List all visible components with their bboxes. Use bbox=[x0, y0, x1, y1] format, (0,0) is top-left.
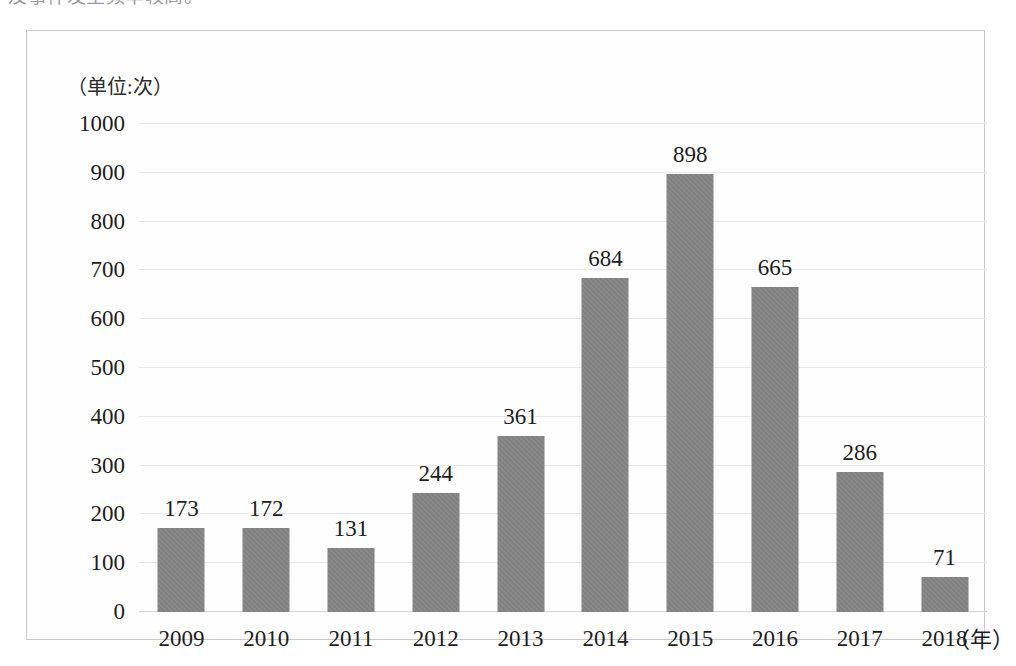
y-axis-tick-label: 0 bbox=[114, 600, 126, 623]
bar[interactable] bbox=[497, 436, 544, 612]
y-axis-tick-label: 900 bbox=[91, 160, 126, 183]
y-axis-tick-label: 100 bbox=[91, 551, 126, 574]
bar-value-label: 71 bbox=[933, 546, 956, 569]
bar-value-label: 131 bbox=[334, 517, 369, 540]
bar-value-label: 244 bbox=[419, 462, 454, 485]
bar[interactable] bbox=[412, 493, 459, 612]
x-axis-tick-label: 2016 bbox=[752, 626, 798, 651]
bar-group: 712018 bbox=[902, 124, 987, 612]
bar-group: 6652016 bbox=[733, 124, 818, 612]
bar-group: 1312011 bbox=[309, 124, 394, 612]
bar-group: 1732009 bbox=[139, 124, 224, 612]
bar-group: 2862017 bbox=[817, 124, 902, 612]
bar-group: 6842014 bbox=[563, 124, 648, 612]
bar[interactable] bbox=[243, 528, 290, 612]
y-axis-tick-label: 600 bbox=[91, 307, 126, 330]
y-axis-unit-label: （单位:次） bbox=[67, 75, 173, 99]
y-axis-tick-label: 800 bbox=[91, 209, 126, 232]
y-axis-tick-label: 200 bbox=[91, 502, 126, 525]
y-axis-tick-label: 400 bbox=[91, 404, 126, 427]
bar[interactable] bbox=[667, 174, 714, 612]
bar-value-label: 684 bbox=[588, 247, 623, 270]
bar[interactable] bbox=[582, 278, 629, 612]
x-axis-tick-label: 2011 bbox=[328, 626, 373, 651]
bar-value-label: 172 bbox=[249, 497, 284, 520]
bar[interactable] bbox=[751, 287, 798, 612]
bar[interactable] bbox=[921, 577, 968, 612]
x-axis-tick-label: 2013 bbox=[498, 626, 544, 651]
y-axis-tick-label: 1000 bbox=[79, 112, 125, 135]
bar-chart-plot-area: 1000900800700600500400300200100017320091… bbox=[139, 124, 987, 612]
bar[interactable] bbox=[158, 528, 205, 612]
bar[interactable] bbox=[327, 548, 374, 612]
y-axis-tick-label: 300 bbox=[91, 453, 126, 476]
bar-value-label: 173 bbox=[164, 497, 199, 520]
bar-group: 3612013 bbox=[478, 124, 563, 612]
x-axis-tick-label: 2009 bbox=[158, 626, 204, 651]
x-axis-tick-label: 2010 bbox=[243, 626, 289, 651]
y-axis-tick-label: 500 bbox=[91, 356, 126, 379]
bar-value-label: 286 bbox=[843, 441, 878, 464]
bar-group: 1722010 bbox=[224, 124, 309, 612]
x-axis-tick-label: 2012 bbox=[413, 626, 459, 651]
bar-value-label: 361 bbox=[503, 405, 538, 428]
bar-value-label: 898 bbox=[673, 143, 708, 166]
chart-figure-frame: （单位:次） 100090080070060050040030020010001… bbox=[26, 30, 985, 640]
bar[interactable] bbox=[836, 472, 883, 612]
bar-group: 8982015 bbox=[648, 124, 733, 612]
x-axis-tick-label: 2014 bbox=[582, 626, 628, 651]
x-axis-unit-label: （年） bbox=[948, 627, 1014, 652]
x-axis-tick-label: 2017 bbox=[837, 626, 883, 651]
bar-value-label: 665 bbox=[758, 256, 793, 279]
cutoff-paragraph-text: 及事件发生频率较高。 bbox=[8, 0, 328, 7]
y-axis-tick-label: 700 bbox=[91, 258, 126, 281]
bar-group: 2442012 bbox=[393, 124, 478, 612]
x-axis-tick-label: 2015 bbox=[667, 626, 713, 651]
